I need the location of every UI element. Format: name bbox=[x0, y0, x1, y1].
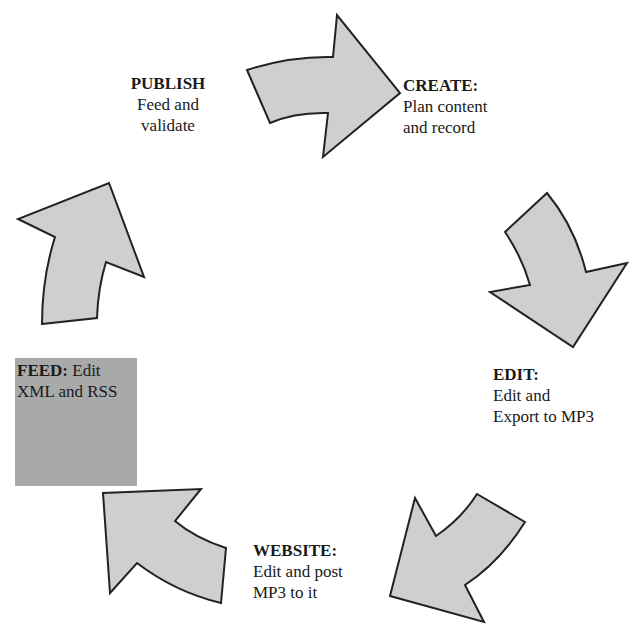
step-title: CREATE: bbox=[403, 75, 488, 96]
step-title: PUBLISH bbox=[112, 73, 224, 94]
step-title: EDIT: bbox=[493, 364, 594, 385]
step-desc-line: MP3 to it bbox=[253, 582, 343, 603]
step-desc-line: Export to MP3 bbox=[493, 406, 594, 427]
step-create: CREATE: Plan content and record bbox=[403, 75, 488, 138]
step-feed-box: FEED: Edit XML and RSS bbox=[15, 358, 137, 486]
arrow-feed-to-publish bbox=[18, 183, 144, 324]
arrow-edit-to-website bbox=[390, 494, 525, 622]
step-desc-line: Plan content bbox=[403, 96, 488, 117]
step-desc-inline: Edit bbox=[68, 361, 101, 380]
step-desc-line: validate bbox=[112, 115, 224, 136]
arrow-website-to-feed bbox=[103, 489, 226, 603]
arrow-create-to-edit bbox=[490, 193, 627, 347]
step-publish: PUBLISH Feed and validate bbox=[112, 73, 224, 136]
step-desc-line: and record bbox=[403, 117, 488, 138]
step-title: WEBSITE: bbox=[253, 540, 343, 561]
step-website: WEBSITE: Edit and post MP3 to it bbox=[253, 540, 343, 603]
step-feed: FEED: Edit XML and RSS bbox=[15, 358, 137, 402]
step-desc-line: Edit and post bbox=[253, 561, 343, 582]
arrow-publish-to-create bbox=[247, 15, 400, 157]
cycle-arrows bbox=[0, 0, 639, 633]
step-desc-line: XML and RSS bbox=[17, 381, 137, 402]
step-title: FEED: bbox=[17, 361, 68, 380]
step-desc-line: Feed and bbox=[112, 94, 224, 115]
step-desc-line: Edit and bbox=[493, 385, 594, 406]
step-edit: EDIT: Edit and Export to MP3 bbox=[493, 364, 594, 427]
